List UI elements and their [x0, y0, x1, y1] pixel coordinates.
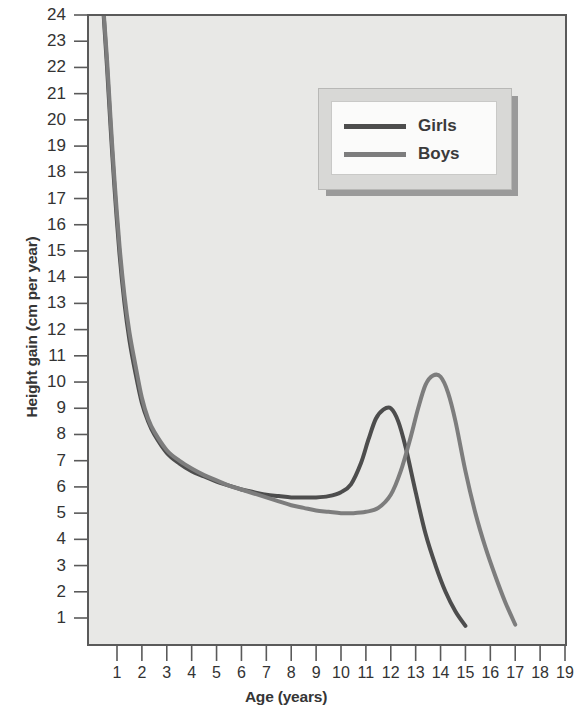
- y-tick-label: 15: [18, 242, 66, 259]
- y-tick-label: 8: [18, 425, 66, 442]
- x-axis-title: Age (years): [0, 688, 572, 706]
- y-tick-label: 10: [18, 373, 66, 390]
- y-tick-label: 11: [18, 347, 66, 364]
- x-tick-label: 19: [550, 665, 578, 681]
- y-tick-label: 23: [18, 32, 66, 49]
- legend-swatch-girls: [344, 124, 406, 129]
- y-tick-label: 21: [18, 85, 66, 102]
- y-tick-label: 4: [18, 530, 66, 547]
- y-tick-label: 22: [18, 58, 66, 75]
- y-tick-label: 12: [18, 321, 66, 338]
- y-tick-label: 17: [18, 190, 66, 207]
- y-tick-label: 24: [18, 6, 66, 23]
- y-tick-label: 6: [18, 478, 66, 495]
- y-tick-label: 19: [18, 137, 66, 154]
- y-tick-label: 7: [18, 452, 66, 469]
- y-tick-label: 20: [18, 111, 66, 128]
- y-tick-label: 9: [18, 399, 66, 416]
- y-tick-label: 16: [18, 216, 66, 233]
- legend-label-girls: Girls: [418, 116, 457, 136]
- y-tick-label: 1: [18, 609, 66, 626]
- legend-item-boys[interactable]: Boys: [344, 144, 460, 164]
- legend-label-boys: Boys: [418, 144, 460, 164]
- y-tick-label: 13: [18, 294, 66, 311]
- legend-frame: [318, 88, 512, 190]
- legend-item-girls[interactable]: Girls: [344, 116, 457, 136]
- y-tick-label: 3: [18, 557, 66, 574]
- y-tick-label: 18: [18, 163, 66, 180]
- y-tick-label: 2: [18, 583, 66, 600]
- y-tick-label: 5: [18, 504, 66, 521]
- legend: Girls Boys: [318, 88, 518, 196]
- y-tick-label: 14: [18, 268, 66, 285]
- legend-swatch-boys: [344, 152, 406, 157]
